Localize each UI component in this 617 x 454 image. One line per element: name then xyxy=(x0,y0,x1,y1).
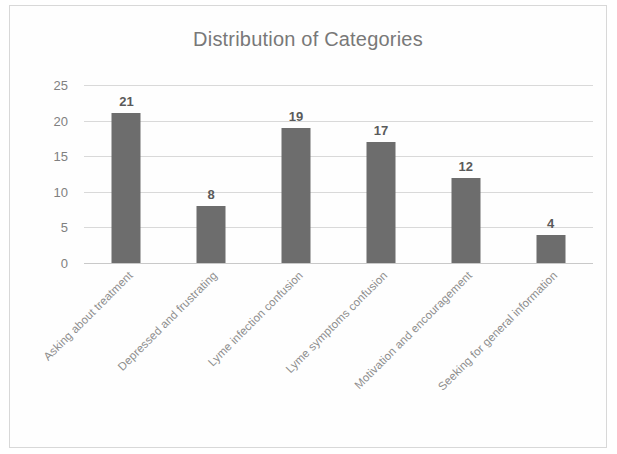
bar-value-label: 4 xyxy=(547,216,554,231)
y-axis-tick-label: 15 xyxy=(54,149,68,164)
bar[interactable] xyxy=(366,142,395,263)
bar-group: 8 xyxy=(169,85,254,263)
bar[interactable] xyxy=(451,178,480,263)
bar-group: 12 xyxy=(423,85,508,263)
chart-title: Distribution of Categories xyxy=(10,28,606,51)
category-label-slot: Seeking for general information xyxy=(508,263,593,453)
bar-value-label: 12 xyxy=(459,159,473,174)
y-axis-tick-label: 10 xyxy=(54,184,68,199)
bar-group: 17 xyxy=(339,85,424,263)
bar[interactable] xyxy=(536,235,565,263)
x-axis-category-labels: Asking about treatmentDepressed and frus… xyxy=(84,263,593,453)
y-axis: 0510152025 xyxy=(10,85,76,263)
bar-group: 4 xyxy=(508,85,593,263)
bar-value-label: 17 xyxy=(374,123,388,138)
bar-value-label: 8 xyxy=(208,187,215,202)
y-axis-tick-label: 25 xyxy=(54,78,68,93)
category-label: Asking about treatment xyxy=(41,269,135,363)
bar[interactable] xyxy=(282,128,311,263)
y-axis-tick-label: 20 xyxy=(54,113,68,128)
bar[interactable] xyxy=(197,206,226,263)
bar[interactable] xyxy=(112,113,141,263)
bar-group: 21 xyxy=(84,85,169,263)
bar-group: 19 xyxy=(254,85,339,263)
y-axis-tick-label: 5 xyxy=(61,220,68,235)
bar-value-label: 19 xyxy=(289,109,303,124)
chart-frame: Distribution of Categories 0510152025 21… xyxy=(9,5,607,448)
y-axis-tick-label: 0 xyxy=(61,256,68,271)
bar-value-label: 21 xyxy=(119,94,133,109)
plot-area: 2181917124 xyxy=(84,85,593,263)
